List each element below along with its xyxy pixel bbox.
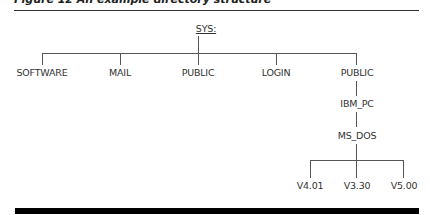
node-mail: MAIL	[109, 68, 131, 78]
node-login: LOGIN	[262, 68, 291, 78]
connector	[356, 160, 357, 178]
connector	[310, 160, 311, 178]
node-v5-00: V5.00	[391, 181, 418, 191]
node-v3-30: V3.30	[344, 181, 371, 191]
connector	[42, 53, 357, 54]
connector	[310, 160, 404, 161]
node-public: PUBLIC	[182, 68, 215, 78]
figure-caption: Figure 12 An example directory structure	[14, 0, 271, 6]
connector	[356, 81, 357, 96]
node-v4-01: V4.01	[297, 181, 324, 191]
connector	[403, 160, 404, 178]
top-rule	[14, 10, 419, 11]
connector	[198, 36, 199, 53]
connector	[120, 53, 121, 65]
connector	[42, 53, 43, 65]
connector	[198, 53, 199, 65]
connector	[276, 53, 277, 65]
node-root: SYS:	[196, 24, 216, 34]
node-public-2: PUBLIC	[341, 68, 374, 78]
connector	[356, 112, 357, 127]
connector	[356, 53, 357, 65]
connector	[356, 144, 357, 160]
bottom-rule	[15, 208, 419, 214]
node-ibm-pc: IBM_PC	[340, 99, 373, 109]
node-software: SOFTWARE	[17, 68, 68, 78]
node-ms-dos: MS_DOS	[338, 131, 377, 141]
